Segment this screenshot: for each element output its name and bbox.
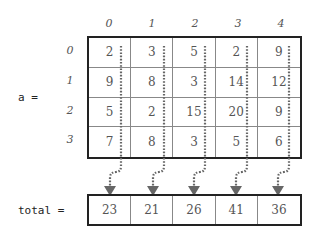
arrow-col-4 — [278, 46, 289, 186]
total-cell: 21 — [131, 196, 173, 224]
total-cell: 41 — [216, 196, 258, 224]
arrow-col-1 — [153, 46, 164, 186]
total-cell: 26 — [173, 196, 215, 224]
arrow-col-2 — [194, 46, 205, 186]
total-cell: 36 — [258, 196, 300, 224]
arrow-col-3 — [236, 46, 247, 186]
arrow-col-0 — [110, 46, 121, 186]
total-array: 23 21 26 41 36 — [87, 194, 302, 226]
total-cell: 23 — [89, 196, 131, 224]
